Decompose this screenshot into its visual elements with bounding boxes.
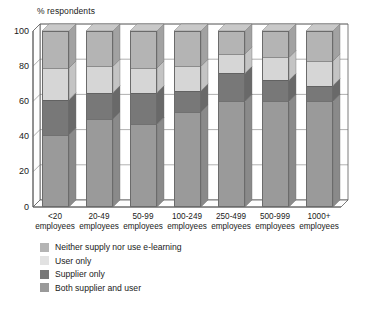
bar-segment	[306, 61, 333, 86]
bar-segment	[174, 91, 201, 112]
x-category-line2: employees	[74, 222, 124, 232]
bar-segment	[218, 54, 245, 73]
y-tick-100: 100	[5, 27, 29, 36]
x-category-label: 250-499employees	[206, 212, 256, 231]
y-tick-20: 20	[5, 167, 29, 176]
bar-segment	[86, 93, 113, 119]
y-tick-0: 0	[5, 203, 29, 212]
bar-segment	[306, 31, 333, 61]
bar-group	[130, 31, 157, 207]
bar-segment	[86, 66, 113, 92]
legend-label: Both supplier and user	[55, 283, 141, 293]
bar-front-faces	[86, 31, 113, 207]
bar-segment	[174, 31, 201, 66]
bar-segment	[218, 73, 245, 101]
y-tick-60: 60	[5, 97, 29, 106]
x-category-label: <20employees	[30, 212, 80, 231]
bar-front-faces	[218, 31, 245, 207]
bar-front-faces	[42, 31, 69, 207]
x-category-line1: <20	[30, 212, 80, 222]
legend-swatch-icon	[40, 270, 49, 279]
x-category-line1: 1000+	[294, 212, 344, 222]
x-category-line2: employees	[206, 222, 256, 232]
chart-legend: Neither supply nor use e-learningUser on…	[40, 241, 182, 295]
legend-label: User only	[55, 256, 91, 266]
bar-segment	[86, 31, 113, 66]
bar-segment	[262, 31, 289, 57]
y-tick-80: 80	[5, 62, 29, 71]
bar-front-faces	[174, 31, 201, 207]
bar-segment	[174, 112, 201, 207]
bar-segment	[262, 80, 289, 101]
legend-label: Supplier only	[55, 269, 105, 279]
bar-group	[262, 31, 289, 207]
x-category-label: 1000+employees	[294, 212, 344, 231]
chart-container: % respondents 100 80 60 40 20 0 <20	[0, 0, 365, 309]
y-tick-40: 40	[5, 132, 29, 141]
bar-segment	[130, 124, 157, 207]
bar-segment	[218, 31, 245, 54]
legend-swatch-icon	[40, 283, 49, 292]
bar-segment	[42, 31, 69, 68]
x-category-line1: 50-99	[118, 212, 168, 222]
bar-group	[86, 31, 113, 207]
legend-swatch-icon	[40, 256, 49, 265]
bar-front-faces	[306, 31, 333, 207]
bar-segment	[86, 119, 113, 207]
x-category-label: 20-49employees	[74, 212, 124, 231]
bar-front-faces	[262, 31, 289, 207]
bar-segment	[262, 57, 289, 80]
bar-segment	[42, 68, 69, 100]
bar-segment	[130, 93, 157, 125]
x-category-line1: 20-49	[74, 212, 124, 222]
bar-group	[306, 31, 333, 207]
bar-segment	[42, 135, 69, 207]
x-category-line2: employees	[30, 222, 80, 232]
x-category-line1: 100-249	[162, 212, 212, 222]
legend-item[interactable]: Supplier only	[40, 268, 182, 280]
bar-segment	[42, 100, 69, 135]
bar-segment	[262, 101, 289, 207]
x-category-line2: employees	[250, 222, 300, 232]
x-category-line2: employees	[118, 222, 168, 232]
x-category-label: 50-99employees	[118, 212, 168, 231]
x-category-label: 500-999employees	[250, 212, 300, 231]
x-category-line2: employees	[294, 222, 344, 232]
x-category-line1: 500-999	[250, 212, 300, 222]
bar-front-faces	[130, 31, 157, 207]
legend-swatch-icon	[40, 243, 49, 252]
bar-group	[218, 31, 245, 207]
bar-segment	[130, 68, 157, 93]
legend-item[interactable]: Both supplier and user	[40, 282, 182, 294]
legend-item[interactable]: Neither supply nor use e-learning	[40, 241, 182, 253]
bar-group	[174, 31, 201, 207]
bar-group	[42, 31, 69, 207]
legend-label: Neither supply nor use e-learning	[55, 242, 182, 252]
bars-layer	[33, 31, 341, 207]
x-category-line2: employees	[162, 222, 212, 232]
bar-segment	[174, 66, 201, 91]
legend-item[interactable]: User only	[40, 255, 182, 267]
bar-segment	[306, 101, 333, 207]
x-category-label: 100-249employees	[162, 212, 212, 231]
bar-segment	[218, 101, 245, 207]
bar-segment	[130, 31, 157, 68]
x-category-line1: 250-499	[206, 212, 256, 222]
bar-segment	[306, 86, 333, 102]
